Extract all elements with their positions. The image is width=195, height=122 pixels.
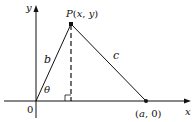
y-axis-arrow-icon [34, 5, 39, 12]
point-a-label: (a, 0) [135, 108, 162, 119]
side-b-label: b [44, 53, 51, 66]
right-angle-marker [65, 95, 71, 101]
triangle-diagram: y x 0 P(x, y) (a, 0) b c θ [0, 0, 195, 122]
angle-theta-label: θ [44, 84, 50, 95]
x-axis-arrow-icon [184, 99, 191, 104]
point-p-marker [69, 22, 73, 26]
side-c [71, 24, 146, 101]
point-a-marker [144, 99, 148, 103]
side-b [36, 24, 71, 101]
side-c-label: c [113, 49, 119, 62]
x-axis-label: x [185, 106, 191, 117]
point-p-label: P(x, y) [65, 8, 98, 19]
origin-label: 0 [27, 104, 33, 115]
y-axis-label: y [25, 2, 32, 13]
